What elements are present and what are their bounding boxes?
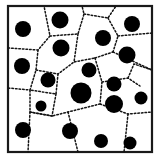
voronoi-figure: Voronoi tessellation with dispersed part…	[0, 0, 163, 162]
particle-dot	[36, 101, 47, 112]
particle-dot	[105, 95, 123, 113]
particle-dot	[95, 30, 111, 46]
voronoi-diagram: Voronoi tessellation with dispersed part…	[0, 0, 163, 162]
particle-dot	[124, 16, 140, 32]
particle-dot	[14, 58, 30, 74]
particle-dot	[52, 12, 69, 29]
particle-dot	[62, 123, 78, 139]
particle-dot	[15, 21, 31, 37]
particle-dot	[15, 122, 31, 138]
particle-dot	[94, 134, 108, 148]
particle-dot	[135, 92, 148, 105]
particle-dot	[53, 40, 70, 57]
particle-dot	[124, 137, 137, 150]
particle-dot	[41, 73, 56, 88]
particle-dot	[107, 77, 122, 92]
particle-dot	[71, 83, 92, 104]
particle-dot	[119, 47, 136, 64]
particle-dot	[82, 63, 97, 78]
